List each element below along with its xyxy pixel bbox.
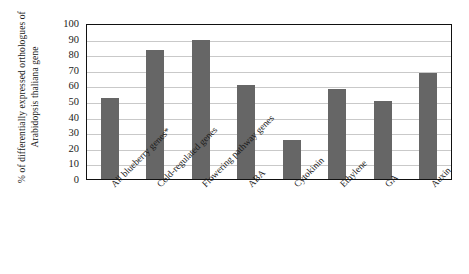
y-axis-tick-label: 0 xyxy=(74,175,79,186)
bar-slot xyxy=(269,25,315,179)
y-axis-tick-label: 50 xyxy=(69,97,80,108)
bar xyxy=(146,50,164,179)
bar-slot xyxy=(360,25,406,179)
bar xyxy=(192,40,210,179)
bar-slot xyxy=(315,25,361,179)
bar-chart: % of differentially expressed orthologue… xyxy=(0,0,469,274)
y-axis-tick-label: 90 xyxy=(69,34,80,45)
y-axis-tick-label: 30 xyxy=(69,128,80,139)
y-axis-tick-label: 40 xyxy=(69,112,80,123)
y-axis-tick-label: 80 xyxy=(69,50,80,61)
y-axis-tick-label: 10 xyxy=(69,159,80,170)
y-axis-tick-label: 70 xyxy=(69,66,80,77)
bar-slot xyxy=(406,25,452,179)
y-axis-title-text: % of differentially expressed orthologue… xyxy=(16,7,41,187)
x-axis-tick-labels: All blueberry genes*Cold-regulated genes… xyxy=(86,182,452,272)
y-axis-tick-label: 60 xyxy=(69,81,80,92)
bar xyxy=(419,73,437,179)
y-axis-tick-label: 20 xyxy=(69,144,80,155)
bar xyxy=(374,101,392,179)
y-axis-tick-label: 100 xyxy=(63,19,79,30)
bar xyxy=(101,98,119,179)
y-axis-title: % of differentially expressed orthologue… xyxy=(6,6,50,188)
y-axis-tick-labels: 0102030405060708090100 xyxy=(52,24,82,180)
bar xyxy=(328,89,346,179)
bar xyxy=(283,140,301,179)
bar-slot xyxy=(87,25,133,179)
